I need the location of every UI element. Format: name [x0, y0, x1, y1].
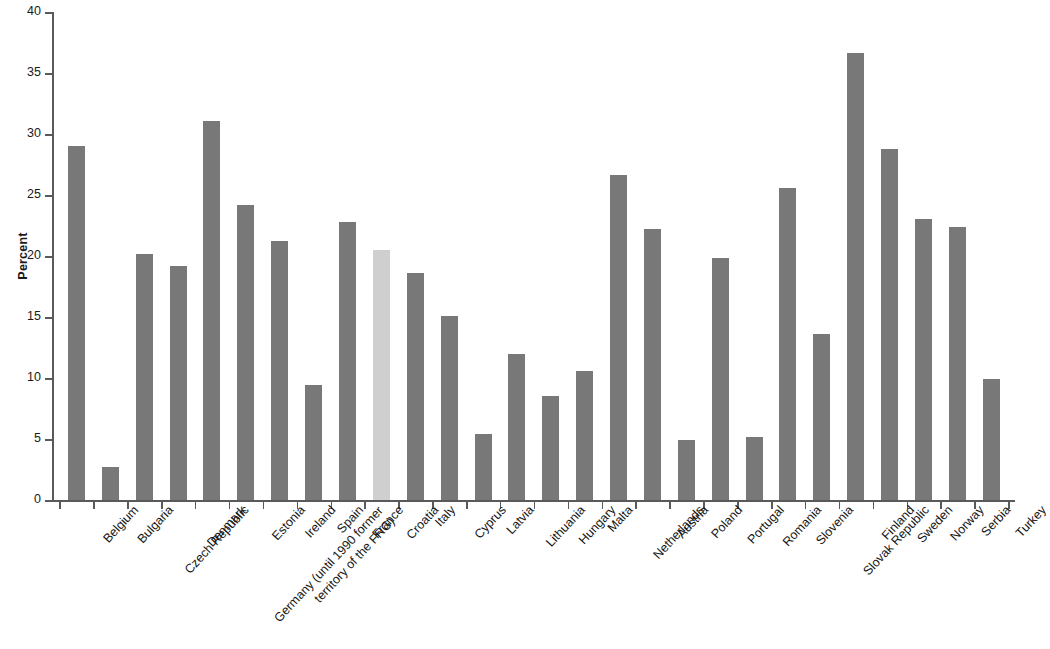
y-axis-line — [52, 12, 54, 501]
y-tick-25: 25 — [45, 195, 52, 197]
bar — [610, 175, 627, 500]
y-tick-label: 15 — [27, 309, 41, 323]
bar — [102, 467, 119, 500]
x-axis-label: Latvia — [504, 503, 538, 538]
y-tick-label: 30 — [27, 126, 41, 140]
bar — [271, 241, 288, 500]
x-axis-label: Poland — [709, 503, 747, 542]
bar — [983, 379, 1000, 500]
bar — [847, 53, 864, 500]
y-tick-10: 10 — [45, 378, 52, 380]
bar — [305, 385, 322, 500]
y-tick-label: 25 — [27, 187, 41, 201]
bar — [779, 188, 796, 500]
y-tick-label: 20 — [27, 248, 41, 262]
bar — [339, 222, 356, 500]
y-tick-0: 0 — [45, 500, 52, 502]
y-tick-35: 35 — [45, 73, 52, 75]
x-axis-label: Norway — [947, 503, 987, 544]
bar — [441, 316, 458, 500]
x-axis-label: Estonia — [269, 503, 308, 544]
plot-area: 0510152025303540 — [52, 12, 1015, 500]
x-axis-label: Bulgaria — [135, 503, 177, 547]
bar — [68, 146, 85, 500]
y-tick-label: 0 — [34, 492, 41, 506]
x-axis-label: Turkey — [1013, 503, 1050, 541]
x-axis-label: Ireland — [302, 503, 339, 541]
y-tick-5: 5 — [45, 439, 52, 441]
x-axis-label: Belgium — [101, 503, 143, 546]
bar — [915, 219, 932, 500]
y-tick-label: 40 — [27, 4, 41, 18]
y-tick-label: 35 — [27, 65, 41, 79]
x-axis-labels: BelgiumBulgariaCzech RepublicDenmarkGerm… — [52, 503, 1015, 649]
bar — [373, 250, 390, 500]
bar — [576, 371, 593, 500]
y-tick-30: 30 — [45, 134, 52, 136]
bar — [813, 334, 830, 500]
bar — [678, 440, 695, 500]
x-axis-label: Cyprus — [472, 503, 510, 542]
y-tick-15: 15 — [45, 317, 52, 319]
y-tick-40: 40 — [45, 12, 52, 14]
y-tick-label: 10 — [27, 370, 41, 384]
bar — [712, 258, 729, 500]
y-tick-20: 20 — [45, 256, 52, 258]
bar — [407, 273, 424, 500]
x-axis-label: Denmark — [204, 503, 250, 550]
y-tick-label: 5 — [34, 431, 41, 445]
bar — [542, 396, 559, 500]
bar — [136, 254, 153, 500]
bar — [644, 229, 661, 500]
bar — [508, 354, 525, 500]
bar — [237, 205, 254, 500]
bar — [881, 149, 898, 500]
bar — [170, 266, 187, 500]
x-axis-label: Serbia — [979, 503, 1015, 540]
bar — [949, 227, 966, 500]
bar — [475, 434, 492, 500]
bar — [203, 121, 220, 500]
bar — [746, 437, 763, 500]
